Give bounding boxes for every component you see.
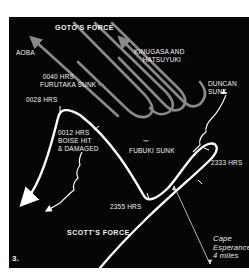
battle-map-panel: GOTO'S FORCE AOBA KINUGASA AND HATSUYUKI… bbox=[9, 17, 249, 268]
furutaka-sunk-label: 0040 HRS FURUTAKA SUNK bbox=[40, 73, 96, 89]
kinugasa-label: KINUGASA AND HATSUYUKI bbox=[134, 48, 185, 64]
sunk-ship-icon-fubuki bbox=[143, 140, 149, 142]
distance-arrow bbox=[173, 186, 212, 264]
scott-force-label: SCOTT'S FORCE bbox=[67, 229, 130, 237]
sunk-ship-icon-furutaka bbox=[98, 84, 104, 86]
fubuki-sunk-label: FUBUKI SUNK bbox=[129, 147, 175, 155]
boise-hit-label: 0012 HRS BOISE HIT & DAMAGED bbox=[58, 129, 99, 154]
turn-0028-label: 0028 HRS bbox=[26, 96, 57, 104]
scott-force-track bbox=[26, 110, 217, 268]
cape-esperance-note: Cape Esperance 4 miles bbox=[213, 235, 249, 261]
boise-track bbox=[48, 152, 82, 210]
figure-number: 3. bbox=[12, 255, 19, 263]
time-2333-label: 2333 HRS bbox=[211, 159, 242, 167]
duncan-sunk-label: DUNCAN SUNK bbox=[208, 80, 237, 96]
time-2355-label: 2355 HRS bbox=[110, 203, 141, 211]
goto-force-tracks bbox=[34, 23, 205, 117]
aoba-label: AOBA bbox=[16, 49, 35, 57]
goto-force-label: GOTO'S FORCE bbox=[55, 24, 114, 32]
